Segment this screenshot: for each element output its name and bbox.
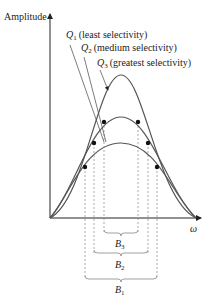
- label-q1: Q1(least selectivity): [66, 29, 147, 42]
- brace-b3: [104, 230, 138, 236]
- leader-q3: [100, 70, 108, 90]
- x-axis-label: ω: [190, 223, 197, 234]
- brace-b1: [85, 276, 157, 282]
- label-q2: Q2(medium selectivity): [81, 42, 177, 55]
- selectivity-diagram: Amplitude ω Q1(least selectivity) Q2(med…: [0, 0, 207, 306]
- label-q3: Q3(greatest selectivity): [97, 57, 191, 70]
- curve-q2: [50, 117, 196, 218]
- label-b3: B3: [115, 238, 125, 251]
- label-b1: B1: [115, 284, 125, 297]
- curve-q3: [50, 75, 196, 218]
- y-axis-label: Amplitude: [4, 11, 47, 22]
- label-b2: B2: [115, 259, 125, 272]
